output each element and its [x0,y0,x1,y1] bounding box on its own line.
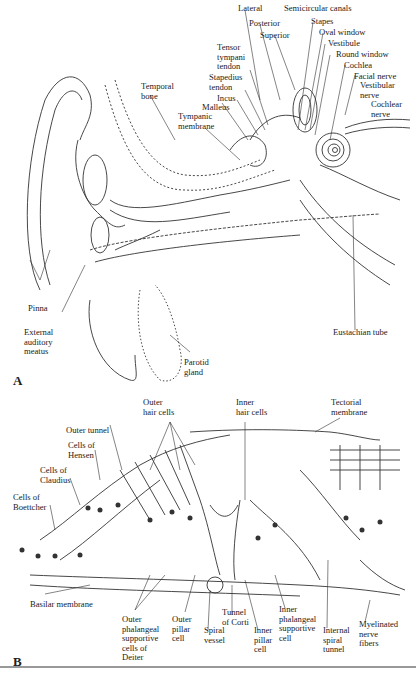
label-pinna: Pinna [28,304,48,314]
temporal-bone-shape [105,80,275,190]
label-tunnel-of-corti: Tunnel of Corti [222,608,249,627]
label-tympanic-membrane: Tympanic membrane [178,112,214,131]
ear-canal-wall [110,180,290,208]
label-inner-hair-cells: Inner hair cells [236,398,267,417]
label-outer-tunnel: Outer tunnel [66,426,109,436]
label-round-window: Round window [336,50,389,60]
label-eustachian-tube: Eustachian tube [333,328,388,338]
label-posterior: Posterior [249,19,280,29]
label-tensor-tympani-tendon: Tensor tympani tendon [217,43,245,72]
label-internal-spiral-tunnel: Internal spiral tunnel [323,626,350,655]
label-cells-of-hensen: Cells of Hensen [68,441,95,460]
label-external-auditory-meatus: External auditory meatus [24,328,53,357]
label-outer-hair-cells: Outer hair cells [143,398,174,417]
label-basilar-membrane: Basilar membrane [30,600,93,610]
label-temporal-bone: Temporal bone [141,82,174,101]
ossicles [230,136,266,166]
label-cells-of-boettcher: Cells of Boettcher [13,493,46,512]
label-stapes: Stapes [311,17,333,27]
parotid-shape [138,285,181,381]
panel-a-letter: A [13,373,22,389]
label-vestibule: Vestibule [328,39,360,49]
label-cochlea: Cochlea [344,61,372,71]
label-superior: Superior [260,31,290,41]
cochlear-nerve-shape [345,119,410,128]
label-cochlear-nerve: Cochlear nerve [371,100,402,119]
label-stapedius-tendon: Stapedius tendon [209,73,242,92]
label-oval-window: Oval window [319,28,366,38]
label-inner-phalangeal-cell: Inner phalangeal supportive cell [279,605,316,643]
label-outer-pillar-cell: Outer pillar cell [172,615,192,644]
label-lateral: Lateral [238,4,262,14]
leader-lines-a [30,10,355,352]
bottom-rule [0,666,416,668]
label-spiral-vessel: Spiral vessel [204,626,225,645]
label-outer-phalangeal-cells: Outer phalangeal supportive cells of Dei… [122,615,159,663]
label-semicircular-canals: Semicircular canals [284,4,352,14]
label-vestibular-nerve: Vestibular nerve [360,81,395,100]
label-tectorial-membrane: Tectorial membrane [331,398,367,417]
label-myelinated-nerve-fibers: Myelinated nerve fibers [359,620,398,649]
label-inner-pillar-cell: Inner pillar cell [254,626,272,655]
cochlea-spiral [316,133,350,167]
label-parotid-gland: Parotid gland [184,358,209,377]
label-cells-of-claudius: Cells of Claudius [40,466,71,485]
